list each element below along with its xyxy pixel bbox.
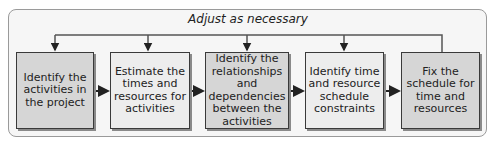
step-5-box: Fix the schedule for time and resources xyxy=(401,52,480,129)
step-1-label: Identify the activities in the project xyxy=(19,72,91,110)
step-4-label: Identify time and resource schedule cons… xyxy=(308,66,381,116)
step-4-box: Identify time and resource schedule cons… xyxy=(305,52,384,129)
step-1-box: Identify the activities in the project xyxy=(16,52,94,129)
step-5-label: Fix the schedule for time and resources xyxy=(404,66,477,116)
step-3-box: Identify the relationships and dependenc… xyxy=(205,52,289,129)
step-2-box: Estimate the times and resources for act… xyxy=(110,52,190,129)
step-2-label: Estimate the times and resources for act… xyxy=(113,66,187,116)
step-3-label: Identify the relationships and dependenc… xyxy=(208,53,286,128)
